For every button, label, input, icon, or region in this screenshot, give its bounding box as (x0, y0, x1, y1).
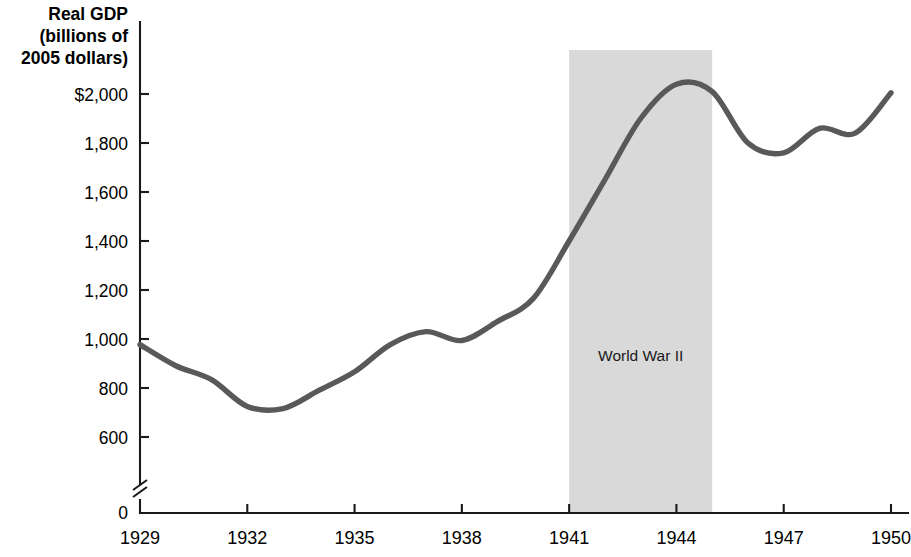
x-tick-label: 1941 (549, 528, 589, 548)
x-tick-label: 1947 (764, 528, 804, 548)
y-tick-label: 1,400 (84, 232, 128, 252)
y-axis-ticks (140, 94, 149, 437)
y-tick-label: 1,200 (84, 281, 128, 301)
gdp-series-line (140, 82, 891, 410)
y-tick-label: 800 (99, 379, 128, 399)
band-annotation-labels: World War II (598, 347, 683, 364)
y-axis-title-line: 2005 dollars) (21, 48, 128, 68)
world-war-ii-label: World War II (598, 347, 683, 364)
x-axis-tick-labels: 19291932193519381941194419471950 (120, 528, 911, 548)
y-axis-title-line: (billions of (40, 26, 129, 46)
y-axis-title-line: Real GDP (48, 4, 128, 24)
y-axis-title: Real GDP(billions of2005 dollars) (21, 4, 128, 68)
x-tick-label: 1938 (442, 528, 482, 548)
y-tick-label: 600 (99, 428, 128, 448)
x-tick-label: 1950 (871, 528, 911, 548)
x-tick-label: 1932 (227, 528, 267, 548)
gdp-line-chart: 6008001,0001,2001,4001,6001,800$2,000 19… (0, 0, 911, 557)
y-tick-label: 1,800 (84, 134, 128, 154)
y-tick-label: $2,000 (74, 85, 128, 105)
x-tick-label: 1935 (335, 528, 375, 548)
y-axis-tick-labels: 6008001,0001,2001,4001,6001,800$2,000 (74, 85, 128, 448)
x-tick-label: 1929 (120, 528, 160, 548)
series-group (140, 82, 891, 410)
y-tick-label: 1,000 (84, 330, 128, 350)
x-tick-label: 1944 (656, 528, 696, 548)
x-axis-ticks (247, 504, 891, 513)
chart-canvas: 6008001,0001,2001,4001,6001,800$2,000 19… (0, 0, 911, 557)
y-axis-zero-label: 0 (118, 503, 128, 523)
y-tick-label: 1,600 (84, 183, 128, 203)
